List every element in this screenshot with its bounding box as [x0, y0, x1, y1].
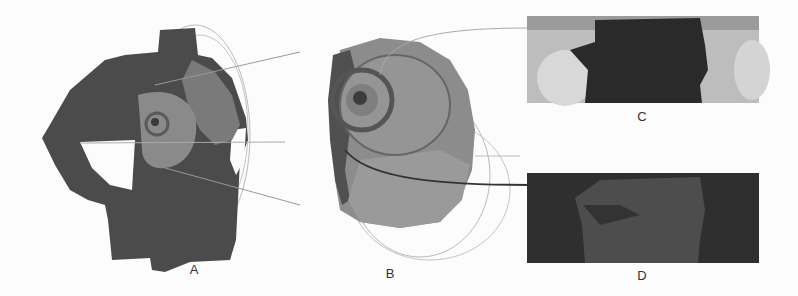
panel-c-surface-map: [527, 16, 770, 106]
panel-label-d: D: [632, 268, 652, 283]
panel-d-surface-map: [527, 173, 759, 263]
panel-label-b: B: [380, 266, 400, 281]
panel-label-c: C: [632, 109, 652, 124]
panel-a-torso: [42, 25, 300, 272]
figure-canvas: [0, 0, 798, 296]
panel-label-a: A: [184, 262, 204, 277]
panel-b-enlarged: [328, 28, 530, 260]
